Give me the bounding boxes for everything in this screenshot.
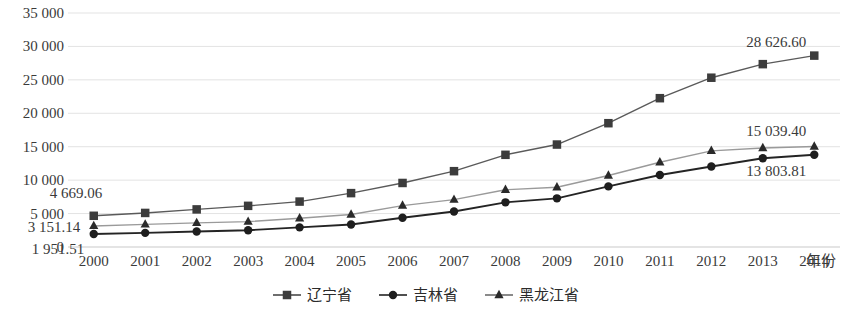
triangle-marker-icon [484,288,514,302]
square-marker-icon [604,119,613,128]
circle-marker-icon [810,151,818,159]
x-axis-tick-label: 2002 [182,252,212,270]
x-axis-tick-label: 2005 [336,252,366,270]
circle-marker-icon [192,227,200,235]
series-line [94,155,815,234]
legend: 辽宁省吉林省黑龙江省 [0,283,851,307]
x-axis-tick-label: 2003 [233,252,263,270]
triangle-marker-icon [494,290,503,298]
square-marker-icon [398,179,407,188]
circle-marker-icon [759,154,767,162]
data-point-label: 15 039.40 [746,124,806,139]
x-axis-tick-label: 2000 [79,252,109,270]
circle-marker-icon [244,226,252,234]
legend-label: 辽宁省 [307,287,352,303]
x-axis-tick-label: 2001 [130,252,160,270]
square-marker-icon [89,212,98,221]
circle-marker-icon [501,198,509,206]
data-point-label: 13 803.81 [746,164,806,179]
x-axis-tick-label: 2012 [696,252,726,270]
square-marker-icon [347,189,356,198]
square-marker-icon [141,209,150,218]
square-marker-icon [272,288,302,302]
data-point-label: 3 151.14 [28,220,81,235]
x-axis-tick-label: 2004 [285,252,315,270]
x-axis-tick-label: 2008 [490,252,520,270]
data-point-label: 4 669.06 [50,186,103,201]
x-axis-tick-label: 2009 [542,252,572,270]
square-marker-icon [501,151,510,160]
x-axis-tick-label: 2013 [748,252,778,270]
x-axis: 2000200120022003200420052006200720082009… [68,252,840,274]
square-marker-icon [553,140,562,149]
circle-marker-icon [398,214,406,222]
data-point-label: 28 626.60 [746,35,806,50]
square-marker-icon [759,60,768,69]
circle-marker-icon [295,223,303,231]
x-axis-title: 年份 [806,252,836,270]
legend-item-3[interactable]: 黑龙江省 [484,287,579,303]
square-marker-icon [707,73,716,82]
square-marker-icon [656,94,665,103]
triangle-marker-icon [244,216,253,224]
series-3 [89,141,819,229]
legend-item-2[interactable]: 吉林省 [378,287,458,303]
circle-marker-icon [656,171,664,179]
circle-marker-icon [347,220,355,228]
square-marker-icon [450,167,459,176]
square-marker-icon [295,197,304,206]
triangle-marker-icon [89,221,98,229]
x-axis-tick-label: 2011 [645,252,674,270]
triangle-marker-icon [192,218,201,226]
x-axis-tick-label: 2006 [388,252,418,270]
triangle-marker-icon [810,141,819,149]
legend-label: 黑龙江省 [519,287,579,303]
legend-item-1[interactable]: 辽宁省 [272,287,352,303]
x-axis-tick-label: 2007 [439,252,469,270]
circle-marker-icon [450,207,458,215]
triangle-marker-icon [295,213,304,221]
circle-marker-icon [378,288,408,302]
legend-label: 吉林省 [413,287,458,303]
circle-marker-icon [141,229,149,237]
square-marker-icon [244,202,253,211]
circle-marker-icon [389,291,397,299]
line-chart: 05 00010 00015 00020 00025 00030 00035 0… [0,0,851,310]
triangle-marker-icon [501,185,510,193]
circle-marker-icon [553,194,561,202]
triangle-marker-icon [141,219,150,227]
square-marker-icon [283,291,292,300]
circle-marker-icon [707,162,715,170]
square-marker-icon [810,51,819,60]
square-marker-icon [192,205,201,214]
circle-marker-icon [604,182,612,190]
circle-marker-icon [90,230,98,238]
x-axis-tick-label: 2010 [593,252,623,270]
